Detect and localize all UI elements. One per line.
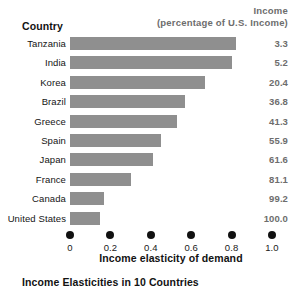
elasticity-bar: [70, 153, 153, 166]
x-axis-title: Income elasticity of demand: [70, 252, 272, 264]
elasticity-bar: [70, 76, 205, 89]
country-label: Brazil: [0, 96, 66, 107]
income-elasticity-chart: Income (percentage of U.S. Income) Count…: [0, 0, 292, 300]
income-value: 61.6: [232, 154, 288, 165]
tick-dot-icon: [228, 231, 236, 239]
elasticity-bar: [70, 192, 104, 205]
elasticity-bar: [70, 134, 161, 147]
elasticity-bar: [70, 37, 236, 50]
income-value: 3.3: [232, 38, 288, 49]
chart-row: Greece41.3: [0, 114, 292, 133]
chart-row: Spain55.9: [0, 133, 292, 152]
figure-caption: Income Elasticities in 10 Countries: [22, 276, 199, 288]
country-label: Greece: [0, 116, 66, 127]
elasticity-bar: [70, 56, 232, 69]
chart-row: Brazil36.8: [0, 94, 292, 113]
income-value: 20.4: [232, 77, 288, 88]
chart-row: Korea20.4: [0, 75, 292, 94]
income-value: 99.2: [232, 193, 288, 204]
country-label: India: [0, 57, 66, 68]
income-value: 55.9: [232, 135, 288, 146]
chart-row: Tanzania3.3: [0, 36, 292, 55]
income-header-line2: (percentage of U.S. Income): [88, 17, 288, 29]
elasticity-bar: [70, 212, 100, 225]
elasticity-bar: [70, 173, 131, 186]
country-label: France: [0, 174, 66, 185]
income-value: 36.8: [232, 96, 288, 107]
chart-row: United States100.0: [0, 211, 292, 230]
country-label: Spain: [0, 135, 66, 146]
chart-row: India5.2: [0, 55, 292, 74]
income-value: 100.0: [232, 213, 288, 224]
income-column-header: Income (percentage of U.S. Income): [88, 5, 288, 29]
chart-rows: Tanzania3.3India5.2Korea20.4Brazil36.8Gr…: [0, 36, 292, 230]
elasticity-bar: [70, 115, 177, 128]
country-label: Canada: [0, 193, 66, 204]
elasticity-bar: [70, 95, 185, 108]
country-column-header: Country: [22, 20, 63, 32]
tick-dot-icon: [106, 231, 114, 239]
income-value: 41.3: [232, 116, 288, 127]
income-value: 5.2: [232, 57, 288, 68]
income-header-line1: Income: [88, 5, 288, 17]
chart-row: Canada99.2: [0, 191, 292, 210]
chart-row: France81.1: [0, 172, 292, 191]
chart-row: Japan61.6: [0, 152, 292, 171]
tick-dot-icon: [147, 231, 155, 239]
country-label: Tanzania: [0, 38, 66, 49]
country-label: United States: [0, 213, 66, 224]
tick-dot-icon: [66, 231, 74, 239]
tick-dot-icon: [187, 231, 195, 239]
tick-dot-icon: [268, 231, 276, 239]
country-label: Korea: [0, 77, 66, 88]
country-label: Japan: [0, 154, 66, 165]
income-value: 81.1: [232, 174, 288, 185]
